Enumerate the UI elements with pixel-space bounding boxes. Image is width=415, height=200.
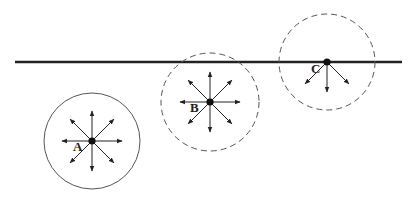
point-dot [88, 137, 95, 144]
arrow-ne-icon [92, 119, 114, 141]
point-a-group [44, 93, 140, 189]
point-dot [323, 58, 330, 65]
arrow-se-icon [92, 141, 114, 163]
point-label-c: C [311, 62, 320, 75]
point-label-a: A [73, 140, 82, 153]
point-label-b: B [190, 101, 199, 114]
point-b-group [161, 53, 259, 151]
arrow-nw-icon [70, 119, 92, 141]
arrow-ne-icon [210, 80, 232, 102]
point-dot [206, 98, 213, 105]
arrow-se-icon [210, 102, 232, 124]
diagram-canvas [0, 0, 415, 200]
arrow-se-icon [327, 62, 349, 84]
arrow-nw-icon [188, 80, 210, 102]
